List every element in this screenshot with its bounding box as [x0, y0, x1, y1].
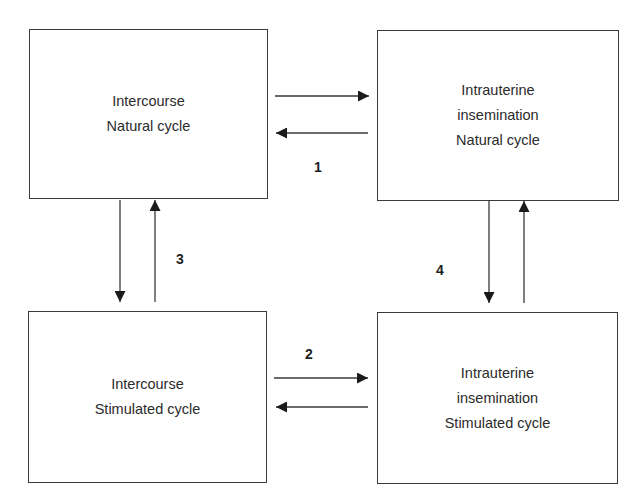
edge-label-2: 2 — [305, 346, 313, 362]
arrows-layer — [0, 0, 637, 502]
edge-label-4: 4 — [436, 262, 444, 278]
edge-label-1: 1 — [314, 159, 322, 175]
edge-label-3: 3 — [176, 251, 184, 267]
